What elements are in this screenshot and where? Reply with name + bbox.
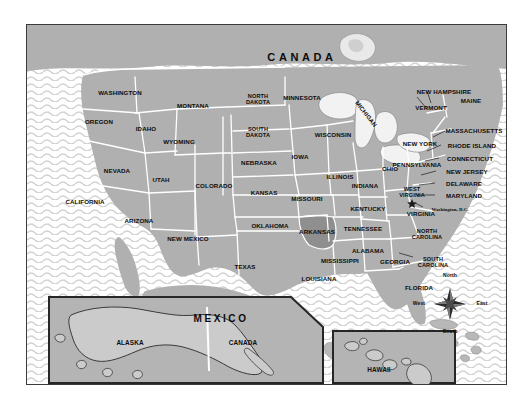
- state-label-north-carolina: NORTH CAROLINA: [412, 229, 442, 240]
- state-label-louisiana: LOUISIANA: [302, 276, 337, 282]
- state-label-nevada: NEVADA: [104, 168, 130, 174]
- state-label-minnesota: MINNESOTA: [283, 95, 321, 101]
- state-label-indiana: INDIANA: [352, 183, 378, 189]
- map-frame: CANADA MEXICO ALASKA CANADA HAWAII Washi…: [26, 24, 507, 385]
- state-label-new-hampshire: NEW HAMPSHIRE: [417, 89, 472, 95]
- state-label-oklahoma: OKLAHOMA: [251, 223, 288, 229]
- state-label-oregon: OREGON: [85, 119, 113, 125]
- state-label-kentucky: KENTUCKY: [350, 206, 385, 212]
- callout-label-delaware: DELAWARE: [446, 181, 482, 187]
- state-label-wyoming: WYOMING: [163, 139, 195, 145]
- state-label-virginia: VIRGINIA: [407, 211, 435, 217]
- state-label-pennsylvania: PENNSYLVANIA: [393, 162, 442, 168]
- state-label-nebraska: NEBRASKA: [241, 160, 277, 166]
- callout-label-connecticut: CONNECTICUT: [447, 156, 493, 162]
- callout-label-massachusetts: MASSACHUSETTS: [446, 128, 503, 134]
- state-label-arizona: ARIZONA: [125, 218, 154, 224]
- state-label-montana: MONTANA: [177, 103, 209, 109]
- us-map: CANADA MEXICO ALASKA CANADA HAWAII Washi…: [0, 0, 531, 415]
- callout-label-new-jersey: NEW JERSEY: [446, 169, 488, 175]
- state-label-ohio: OHIO: [382, 166, 398, 172]
- state-label-michigan: MICHIGAN: [354, 100, 378, 128]
- state-label-california: CALIFORNIA: [65, 199, 104, 205]
- state-label-utah: UTAH: [152, 177, 169, 183]
- state-label-arkansas: ARKANSAS: [299, 229, 335, 235]
- state-label-layer: WASHINGTONOREGONIDAHOMONTANAWYOMINGNEVAD…: [27, 25, 506, 384]
- state-label-new-mexico: NEW MEXICO: [167, 236, 209, 242]
- state-label-washington: WASHINGTON: [98, 90, 142, 96]
- state-label-mississippi: MISSISSIPPI: [321, 258, 359, 264]
- state-label-kansas: KANSAS: [251, 190, 278, 196]
- state-label-missouri: MISSOURI: [291, 196, 322, 202]
- state-label-tennessee: TENNESSEE: [344, 226, 382, 232]
- state-label-iowa: IOWA: [292, 154, 309, 160]
- callout-label-maryland: MARYLAND: [446, 193, 482, 199]
- state-label-wisconsin: WISCONSIN: [315, 132, 352, 138]
- state-label-illinois: ILLINOIS: [327, 174, 354, 180]
- state-label-georgia: GEORGIA: [380, 259, 410, 265]
- state-label-south-dakota: SOUTH DAKOTA: [246, 127, 270, 138]
- state-label-idaho: IDAHO: [136, 126, 156, 132]
- state-label-florida: FLORIDA: [405, 285, 433, 291]
- state-label-south-carolina: SOUTH CAROLINA: [418, 257, 448, 268]
- state-label-new-york: NEW YORK: [403, 141, 438, 147]
- callout-label-rhode-island: RHODE ISLAND: [448, 143, 496, 149]
- state-label-colorado: COLORADO: [196, 183, 233, 189]
- state-label-alabama: ALABAMA: [352, 248, 384, 254]
- state-label-west-virginia: WEST VIRGINIA: [399, 187, 425, 198]
- state-label-texas: TEXAS: [234, 264, 255, 270]
- state-label-vermont: VERMONT: [415, 105, 447, 111]
- state-label-maine: MAINE: [461, 98, 481, 104]
- state-label-north-dakota: NORTH DAKOTA: [246, 94, 270, 105]
